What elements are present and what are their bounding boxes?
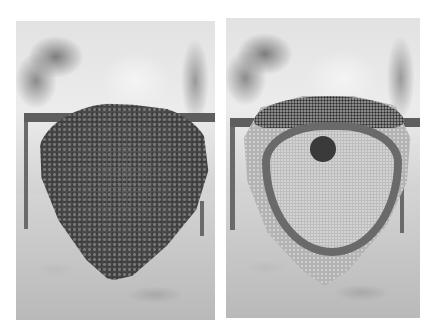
bee-swarm-photo	[16, 21, 215, 320]
honeycomb-photo	[226, 18, 420, 318]
post-left	[230, 124, 235, 230]
post-right	[200, 201, 204, 236]
post-left	[24, 121, 28, 229]
bee-cluster	[310, 136, 336, 162]
